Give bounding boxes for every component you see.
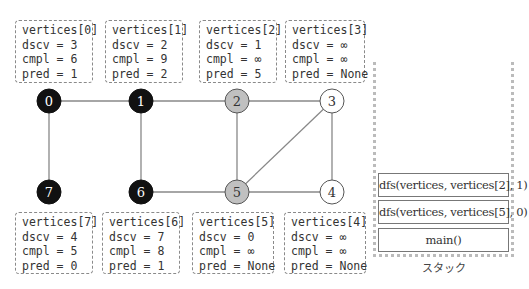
- vertex-info-6: vertices[6] dscv = 7 cmpl = 8 pred = 1: [102, 212, 180, 274]
- vertex-dscv: dscv = 1: [206, 38, 276, 53]
- node-4: 4: [320, 180, 344, 204]
- vertex-info-3: vertices[3] dscv = ∞ cmpl = ∞ pred = Non…: [285, 20, 365, 83]
- vertex-pred: pred = 2: [112, 67, 182, 82]
- vertex-pred: pred = 1: [22, 67, 92, 82]
- vertex-title: vertices[0]: [22, 23, 92, 38]
- vertex-title: vertices[4]: [291, 215, 365, 230]
- vertex-dscv: dscv = ∞: [291, 230, 365, 245]
- vertex-info-0: vertices[0] dscv = 3 cmpl = 6 pred = 1: [15, 20, 93, 83]
- vertex-dscv: dscv = 7: [109, 230, 179, 245]
- vertex-info-5: vertices[5] dscv = 0 cmpl = ∞ pred = Non…: [192, 212, 274, 274]
- svg-text:7: 7: [45, 185, 53, 200]
- vertex-title: vertices[3]: [292, 23, 364, 38]
- edge-3-5: [237, 101, 332, 192]
- vertex-pred: pred = 1: [109, 259, 179, 274]
- vertex-pred: pred = 5: [206, 67, 276, 82]
- node-6: 6: [129, 180, 153, 204]
- vertex-info-4: vertices[4] dscv = ∞ cmpl = ∞ pred = Non…: [284, 212, 366, 274]
- svg-text:2: 2: [233, 94, 241, 109]
- vertex-dscv: dscv = 2: [112, 38, 182, 53]
- svg-text:3: 3: [328, 94, 336, 109]
- vertex-cmpl: cmpl = 6: [22, 52, 92, 67]
- svg-text:0: 0: [45, 94, 53, 109]
- svg-text:1: 1: [137, 94, 145, 109]
- vertex-cmpl: cmpl = 8: [109, 244, 179, 259]
- vertex-info-7: vertices[7] dscv = 4 cmpl = 5 pred = 0: [15, 212, 93, 274]
- vertex-dscv: dscv = 4: [22, 230, 92, 245]
- vertex-pred: pred = None: [199, 259, 273, 274]
- node-2: 2: [225, 89, 249, 113]
- node-1: 1: [129, 89, 153, 113]
- vertex-cmpl: cmpl = ∞: [291, 244, 365, 259]
- vertex-pred: pred = None: [292, 67, 364, 82]
- vertex-pred: pred = None: [291, 259, 365, 274]
- vertex-title: vertices[6]: [109, 215, 179, 230]
- vertex-title: vertices[7]: [22, 215, 92, 230]
- vertex-dscv: dscv = ∞: [292, 38, 364, 53]
- stack-item-main: main(): [378, 228, 509, 252]
- svg-text:4: 4: [328, 185, 336, 200]
- vertex-info-1: vertices[1] dscv = 2 cmpl = 9 pred = 2: [105, 20, 183, 83]
- stack-item-dfs-5: dfs(vertices, vertices[5], 0): [378, 200, 509, 224]
- svg-text:5: 5: [233, 185, 241, 200]
- vertex-cmpl: cmpl = 5: [22, 244, 92, 259]
- svg-text:6: 6: [137, 185, 145, 200]
- vertex-title: vertices[2]: [206, 23, 276, 38]
- vertex-pred: pred = 0: [22, 259, 92, 274]
- vertex-dscv: dscv = 0: [199, 230, 273, 245]
- stack-label: スタック: [373, 259, 514, 275]
- vertex-title: vertices[1]: [112, 23, 182, 38]
- node-7: 7: [37, 180, 61, 204]
- node-5: 5: [225, 180, 249, 204]
- vertex-info-2: vertices[2] dscv = 1 cmpl = ∞ pred = 5: [199, 20, 277, 83]
- node-0: 0: [37, 89, 61, 113]
- vertex-title: vertices[5]: [199, 215, 273, 230]
- vertex-dscv: dscv = 3: [22, 38, 92, 53]
- vertex-cmpl: cmpl = 9: [112, 52, 182, 67]
- node-3: 3: [320, 89, 344, 113]
- vertex-cmpl: cmpl = ∞: [206, 52, 276, 67]
- vertex-cmpl: cmpl = ∞: [199, 244, 273, 259]
- stack-item-dfs-2: dfs(vertices, vertices[2], 1): [378, 173, 509, 197]
- vertex-cmpl: cmpl = ∞: [292, 52, 364, 67]
